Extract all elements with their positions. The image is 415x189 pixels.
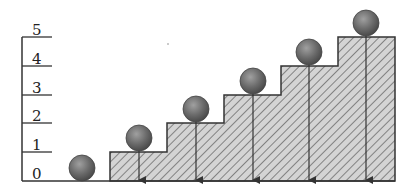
ball-level-3 xyxy=(240,68,266,94)
ball-level-0 xyxy=(69,155,95,181)
tick-label-0: 0 xyxy=(32,165,42,183)
tick-label-4: 4 xyxy=(32,50,42,68)
tick-label-1: 1 xyxy=(32,136,42,154)
ball-level-5 xyxy=(353,10,379,36)
ball-level-4 xyxy=(296,39,322,65)
tick-label-3: 3 xyxy=(32,79,42,97)
tick-label-2: 2 xyxy=(32,107,42,125)
ball-level-2 xyxy=(183,96,209,122)
tick-label-5: 5 xyxy=(32,21,42,39)
staircase-diagram: 0 1 2 3 4 5 xyxy=(0,0,415,189)
speck xyxy=(167,43,169,45)
ball-level-1 xyxy=(126,125,152,151)
